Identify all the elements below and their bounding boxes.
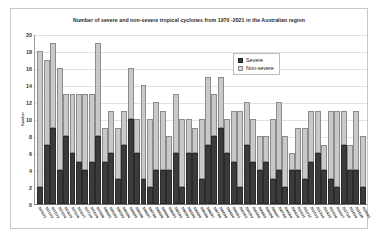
bar-segment-non-severe bbox=[302, 128, 308, 179]
bar-segment-severe bbox=[263, 162, 269, 205]
bar-segment-severe bbox=[44, 145, 50, 205]
bar-segment-non-severe bbox=[315, 111, 321, 154]
bar-column[interactable] bbox=[199, 35, 205, 204]
bar-column[interactable] bbox=[141, 35, 147, 204]
bar-column[interactable] bbox=[121, 35, 127, 204]
bar-column[interactable] bbox=[302, 35, 308, 204]
bar-column[interactable] bbox=[128, 35, 134, 204]
bar-segment-severe bbox=[328, 179, 334, 205]
bar-column[interactable] bbox=[63, 35, 69, 204]
bar-segment-non-severe bbox=[308, 111, 314, 162]
bar-column[interactable] bbox=[173, 35, 179, 204]
bar-segment-non-severe bbox=[70, 94, 76, 154]
bar-segment-non-severe bbox=[95, 43, 101, 137]
bar-segment-severe bbox=[199, 179, 205, 205]
bar-segment-severe bbox=[153, 170, 159, 204]
bar-column[interactable] bbox=[353, 35, 359, 204]
bar-segment-non-severe bbox=[173, 94, 179, 154]
bar-column[interactable] bbox=[328, 35, 334, 204]
bar-segment-severe bbox=[341, 145, 347, 205]
bar-column[interactable] bbox=[282, 35, 288, 204]
y-axis-title: Number bbox=[21, 112, 25, 126]
y-axis-tick-label: 16 bbox=[26, 66, 32, 72]
bar-segment-non-severe bbox=[205, 77, 211, 145]
bar-segment-non-severe bbox=[263, 136, 269, 162]
bar-column[interactable] bbox=[347, 35, 353, 204]
bar-column[interactable] bbox=[108, 35, 114, 204]
bar-segment-severe bbox=[360, 187, 366, 204]
y-axis-tick-label: 20 bbox=[26, 32, 32, 38]
bar-column[interactable] bbox=[224, 35, 230, 204]
bar-segment-severe bbox=[89, 162, 95, 205]
bar-column[interactable] bbox=[295, 35, 301, 204]
bar-segment-severe bbox=[302, 179, 308, 205]
bar-column[interactable] bbox=[289, 35, 295, 204]
bar-column[interactable] bbox=[205, 35, 211, 204]
bar-segment-non-severe bbox=[257, 136, 263, 170]
bar-column[interactable] bbox=[308, 35, 314, 204]
y-axis-tick-label: 12 bbox=[26, 100, 32, 106]
bar-column[interactable] bbox=[341, 35, 347, 204]
bar-column[interactable] bbox=[89, 35, 95, 204]
bar-segment-severe bbox=[276, 170, 282, 204]
legend-swatch-severe-icon bbox=[238, 58, 243, 63]
chart-title: Number of severe and non-severe tropical… bbox=[11, 17, 367, 24]
y-axis-tick-label: 18 bbox=[26, 49, 32, 55]
bar-column[interactable] bbox=[334, 35, 340, 204]
bar-column[interactable] bbox=[218, 35, 224, 204]
bar-segment-severe bbox=[353, 170, 359, 204]
bar-column[interactable] bbox=[360, 35, 366, 204]
bar-segment-non-severe bbox=[108, 111, 114, 154]
y-axis-tick-label: 2 bbox=[29, 185, 32, 191]
x-axis-tick-slot: 2020/21 bbox=[359, 206, 365, 237]
bar-segment-non-severe bbox=[115, 128, 121, 179]
bar-column[interactable] bbox=[147, 35, 153, 204]
bar-segment-non-severe bbox=[102, 128, 108, 162]
bar-column[interactable] bbox=[76, 35, 82, 204]
bar-segment-severe bbox=[76, 162, 82, 205]
bar-column[interactable] bbox=[37, 35, 43, 204]
bar-segment-non-severe bbox=[244, 102, 250, 145]
bar-column[interactable] bbox=[134, 35, 140, 204]
bar-column[interactable] bbox=[115, 35, 121, 204]
bar-column[interactable] bbox=[186, 35, 192, 204]
bar-segment-non-severe bbox=[89, 94, 95, 162]
bar-column[interactable] bbox=[179, 35, 185, 204]
y-axis-tick-label: 8 bbox=[29, 134, 32, 140]
bar-column[interactable] bbox=[211, 35, 217, 204]
legend-label-severe: Severe bbox=[246, 57, 263, 63]
bar-column[interactable] bbox=[192, 35, 198, 204]
bar-segment-severe bbox=[160, 170, 166, 204]
bar-segment-non-severe bbox=[211, 94, 217, 137]
bar-segment-severe bbox=[321, 170, 327, 204]
y-axis-tick-label: 10 bbox=[26, 117, 32, 123]
bar-column[interactable] bbox=[321, 35, 327, 204]
bar-segment-severe bbox=[121, 145, 127, 205]
bar-column[interactable] bbox=[82, 35, 88, 204]
bar-segment-severe bbox=[237, 187, 243, 204]
bar-segment-non-severe bbox=[199, 119, 205, 179]
bar-column[interactable] bbox=[315, 35, 321, 204]
bar-segment-severe bbox=[192, 153, 198, 204]
bar-segment-non-severe bbox=[50, 43, 56, 128]
bar-column[interactable] bbox=[166, 35, 172, 204]
legend-item-non-severe: Non-severe bbox=[238, 64, 274, 72]
legend-swatch-non-severe-icon bbox=[238, 66, 243, 71]
bar-column[interactable] bbox=[57, 35, 63, 204]
bar-column[interactable] bbox=[102, 35, 108, 204]
bar-column[interactable] bbox=[153, 35, 159, 204]
y-axis-tick-label: 14 bbox=[26, 83, 32, 89]
bar-segment-severe bbox=[102, 162, 108, 205]
bar-segment-severe bbox=[50, 128, 56, 205]
bar-column[interactable] bbox=[70, 35, 76, 204]
y-axis-tick-label: 6 bbox=[29, 151, 32, 157]
bar-segment-severe bbox=[37, 187, 43, 204]
bar-segment-non-severe bbox=[237, 111, 243, 188]
bar-column[interactable] bbox=[95, 35, 101, 204]
bar-segment-non-severe bbox=[321, 145, 327, 171]
bar-column[interactable] bbox=[44, 35, 50, 204]
bar-column[interactable] bbox=[50, 35, 56, 204]
bar-column[interactable] bbox=[160, 35, 166, 204]
bar-segment-severe bbox=[141, 179, 147, 205]
bar-segment-severe bbox=[147, 187, 153, 204]
